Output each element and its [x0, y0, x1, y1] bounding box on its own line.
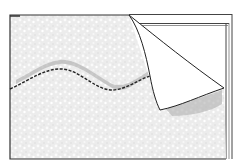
wallpaper-peel-illustration [0, 0, 239, 167]
